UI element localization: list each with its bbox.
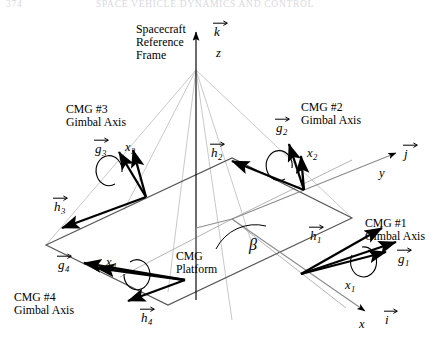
unit-vector-j-label: j: [404, 144, 408, 162]
cmg2-body-axis-label: x2: [307, 143, 317, 163]
unit-vector-k-label: k: [214, 22, 220, 40]
axis-x3-subscript: 3: [131, 146, 136, 156]
cmg2-momentum-arrow: [232, 161, 304, 190]
cmg1-body-axis-label: x1: [345, 275, 355, 295]
running-head-title: SPACE VEHICLE DYNAMICS AND CONTROL: [96, 0, 314, 10]
j-axis: [232, 153, 396, 219]
cmg1-title-line2: Gimbal Axis: [365, 230, 425, 243]
vector-i-letter: i: [385, 312, 389, 327]
cmg4-gimbal-vector-label: g4: [58, 255, 69, 275]
running-head-page-number: 374: [6, 0, 22, 10]
vector-j-letter: j: [404, 146, 408, 161]
figure-canvas: 374 SPACE VEHICLE DYNAMICS AND CONTROL S…: [0, 0, 448, 344]
cmg4-title: CMG #4 Gimbal Axis: [14, 291, 74, 317]
cmg-platform-outline: [46, 158, 352, 305]
vector-g3-glyph: g: [95, 142, 102, 157]
cmg2-momentum-label: h2: [211, 143, 222, 163]
axis-z-label: z: [216, 46, 221, 60]
vector-h3-glyph: h: [54, 200, 61, 215]
vector-h1-letter: h: [310, 228, 317, 243]
axis-x1-letter: x: [345, 278, 351, 292]
cmg2-title-line2: Gimbal Axis: [301, 114, 361, 127]
cmg1-x1-arrow: [301, 252, 386, 274]
vector-h1-subscript: 1: [317, 235, 322, 245]
axis-x3-letter: x: [125, 140, 131, 154]
vector-g3-subscript: 3: [102, 148, 107, 158]
vector-g4-glyph: g: [58, 258, 65, 273]
vector-h4-letter: h: [141, 310, 148, 325]
axis-y-label: y: [379, 166, 385, 180]
cmg3-gimbal-vector-label: g3: [95, 139, 106, 159]
vector-g1-letter: g: [398, 251, 405, 266]
vector-h4-subscript: 4: [148, 317, 153, 327]
vector-h2-glyph: h: [211, 146, 218, 161]
cmg3-body-axis-label: x3: [125, 137, 135, 157]
cmg-platform-line2: Platform: [176, 263, 217, 276]
axis-x1-subscript: 1: [351, 284, 356, 294]
vector-g2-glyph: g: [276, 121, 283, 136]
vector-g3-letter: g: [95, 141, 102, 156]
cmg2-vectors: [232, 144, 304, 190]
cmg2-spin-arc: [266, 151, 292, 181]
cmg3-x3-arrow: [133, 150, 146, 197]
cmg-platform-label: CMG Platform: [176, 250, 217, 276]
cmg3-spin-arc: [96, 156, 122, 186]
axis-x4-subscript: 4: [112, 261, 117, 271]
cmg4-title-line2: Gimbal Axis: [14, 304, 74, 317]
axis-x2-subscript: 2: [313, 152, 318, 162]
cmg2-gimbal-vector-label: g2: [276, 118, 287, 138]
vector-j-glyph: j: [404, 147, 408, 162]
cmg3-vectors: [62, 150, 146, 228]
axis-x2-letter: x: [307, 146, 313, 160]
vector-g1-glyph: g: [398, 252, 405, 267]
cmg1-gimbal-vector-label: g1: [398, 249, 409, 269]
reference-frame-line3: Frame: [136, 49, 186, 62]
vector-g1-subscript: 1: [405, 258, 410, 268]
vector-h3-subscript: 3: [61, 206, 66, 216]
unit-vector-i-label: i: [385, 310, 389, 328]
vector-h2-letter: h: [211, 145, 218, 160]
reference-frame-label: Spacecraft Reference Frame: [136, 23, 186, 63]
cmg3-title: CMG #3 Gimbal Axis: [66, 103, 126, 129]
vector-i-glyph: i: [385, 313, 389, 328]
cmg1-momentum-label: h1: [310, 226, 321, 246]
cmg3-momentum-label: h3: [54, 197, 65, 217]
vector-g2-letter: g: [276, 120, 283, 135]
skew-angle-beta-label: β: [249, 236, 257, 254]
vector-k-glyph: k: [214, 25, 220, 40]
cmg1-title: CMG #1 Gimbal Axis: [365, 217, 425, 243]
cmg2-title: CMG #2 Gimbal Axis: [301, 101, 361, 127]
cmg1-spin-arc: [351, 247, 377, 277]
cmg3-momentum-arrow: [62, 197, 146, 228]
cmg4-momentum-arrow: [128, 280, 185, 301]
vector-h3-letter: h: [54, 199, 61, 214]
cmg3-title-line2: Gimbal Axis: [66, 116, 126, 129]
vector-g4-subscript: 4: [65, 264, 70, 274]
vector-g4-letter: g: [58, 257, 65, 272]
vector-g2-subscript: 2: [283, 127, 288, 137]
cmg4-body-axis-label: x4: [106, 252, 116, 272]
vector-k-letter: k: [214, 24, 220, 39]
axis-x-label: x: [359, 317, 365, 331]
cmg4-momentum-label: h4: [141, 308, 152, 328]
vector-h2-subscript: 2: [218, 152, 223, 162]
axis-x4-letter: x: [106, 255, 112, 269]
vector-h4-glyph: h: [141, 311, 148, 326]
vector-h1-glyph: h: [310, 229, 317, 244]
